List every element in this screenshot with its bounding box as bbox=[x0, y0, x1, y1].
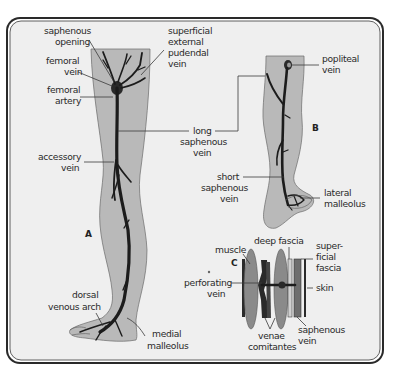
svg-text:vein: vein bbox=[220, 193, 239, 204]
label-lateral-malleolus: lateral bbox=[324, 187, 351, 198]
svg-text:opening: opening bbox=[55, 36, 90, 47]
panel-b-letter: B bbox=[312, 123, 319, 133]
svg-text:vein: vein bbox=[193, 147, 212, 158]
svg-text:vein: vein bbox=[168, 58, 187, 69]
label-femoral-artery: femoral bbox=[47, 84, 80, 95]
label-saphenous-opening: saphenous bbox=[44, 25, 92, 36]
svg-text:vein: vein bbox=[64, 66, 83, 77]
label-medial-malleolus: medial bbox=[152, 328, 181, 339]
svg-text:malleolus: malleolus bbox=[324, 198, 366, 209]
label-superficial-fascia: super- bbox=[316, 240, 343, 251]
svg-text:vein: vein bbox=[298, 335, 317, 346]
svg-text:venous arch: venous arch bbox=[48, 301, 101, 312]
label-long-saphenous-vein: long bbox=[193, 125, 212, 136]
label-short-saphenous-vein: short bbox=[217, 171, 240, 182]
svg-text:ficial: ficial bbox=[316, 251, 336, 262]
label-perforating-vein: perforating bbox=[184, 277, 232, 288]
panel-a-letter: A bbox=[85, 229, 92, 239]
svg-text:vein: vein bbox=[322, 64, 341, 75]
svg-text:saphenous: saphenous bbox=[180, 136, 228, 147]
svg-text:vein: vein bbox=[61, 162, 80, 173]
svg-text:comitantes: comitantes bbox=[248, 341, 297, 352]
label-femoral-vein: femoral bbox=[46, 55, 79, 66]
svg-text:vein: vein bbox=[207, 288, 226, 299]
label-accessory-vein: accessory bbox=[38, 151, 82, 162]
label-muscle: muscle bbox=[215, 244, 247, 255]
svg-text:pudendal: pudendal bbox=[168, 47, 209, 58]
svg-text:external: external bbox=[168, 36, 203, 47]
svg-text:saphenous: saphenous bbox=[201, 182, 249, 193]
label-deep-fascia: deep fascia bbox=[254, 235, 303, 246]
panel-c-letter: C bbox=[231, 258, 238, 268]
svg-text:artery: artery bbox=[55, 95, 82, 106]
label-venae-comitantes: venae bbox=[258, 330, 285, 341]
label-popliteal-vein: popliteal bbox=[322, 53, 359, 64]
label-superficial-external-pudendal-vein: superficial bbox=[168, 25, 212, 36]
svg-text:fascia: fascia bbox=[316, 262, 341, 273]
svg-text:malleolus: malleolus bbox=[147, 340, 189, 351]
saphenous-vein-diagram: saphenous opening femoral vein femoral a… bbox=[0, 0, 399, 387]
label-skin: skin bbox=[316, 282, 334, 293]
label-dorsal-venous-arch: dorsal bbox=[72, 289, 98, 300]
